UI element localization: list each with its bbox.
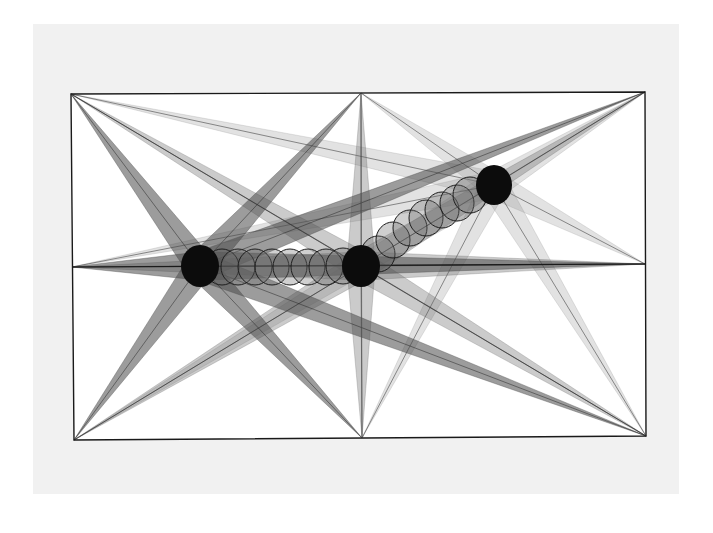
left-disc: [181, 245, 219, 287]
middle-disc: [342, 245, 380, 287]
right-disc: [476, 165, 512, 205]
artwork-canvas: [0, 0, 713, 533]
